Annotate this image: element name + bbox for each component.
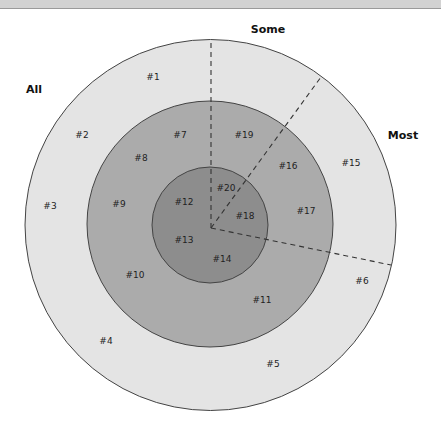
item-label: #13 [175, 235, 194, 245]
inner-ring [152, 167, 268, 283]
item-label: #10 [126, 270, 145, 280]
category-label-all: All [26, 83, 42, 96]
category-label-most: Most [388, 129, 418, 142]
item-label: #18 [236, 211, 255, 221]
item-label: #6 [355, 276, 369, 286]
item-label: #17 [297, 206, 316, 216]
item-label: #19 [235, 130, 254, 140]
item-label: #11 [253, 295, 272, 305]
item-label: #12 [175, 197, 194, 207]
item-label: #15 [342, 158, 361, 168]
item-label: #4 [99, 336, 113, 346]
item-label: #20 [217, 183, 236, 193]
category-label-some: Some [251, 23, 285, 36]
item-label: #8 [134, 153, 148, 163]
item-label: #2 [75, 130, 88, 140]
item-label: #7 [173, 130, 186, 140]
item-label: #14 [213, 254, 232, 264]
item-label: #3 [43, 201, 56, 211]
item-label: #16 [279, 161, 298, 171]
item-label: #5 [266, 359, 279, 369]
item-label: #1 [146, 72, 159, 82]
item-label: #9 [112, 199, 126, 209]
concentric-circle-diagram: AllSomeMost #1#2#3#4#5#6#7#8#9#10#11#12#… [0, 0, 441, 433]
